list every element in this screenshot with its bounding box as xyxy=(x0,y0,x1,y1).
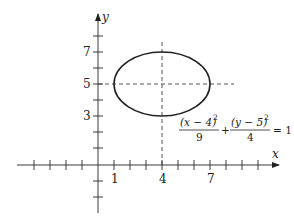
x-tick-label-4: 4 xyxy=(159,172,167,186)
equation-term2-denominator: 4 xyxy=(247,131,254,143)
y-tick-label-3: 3 xyxy=(83,109,91,123)
equation-term2-numerator: (y − 5) xyxy=(231,116,267,128)
y-tick-label-5: 5 xyxy=(83,77,91,91)
equation-term1-exponent: 2 xyxy=(213,113,218,122)
equation-plus: + xyxy=(221,124,230,136)
ellipse-diagram: y x 1 4 7 7 5 3 (x − 4) 2 9 + (y − 5) 2 … xyxy=(0,0,294,219)
x-tick-label-7: 7 xyxy=(207,172,215,186)
ellipse-equation: (x − 4) 2 9 + (y − 5) 2 4 = 1 xyxy=(179,113,292,143)
x-tick-label-1: 1 xyxy=(111,172,119,186)
y-axis-label: y xyxy=(101,10,109,24)
y-tick-label-7: 7 xyxy=(83,45,91,59)
equation-term1-denominator: 9 xyxy=(196,131,203,143)
equation-term1-numerator: (x − 4) xyxy=(180,116,216,128)
x-axis-label: x xyxy=(272,147,279,161)
equation-equals-one: = 1 xyxy=(273,124,292,136)
equation-term2-exponent: 2 xyxy=(264,113,269,122)
